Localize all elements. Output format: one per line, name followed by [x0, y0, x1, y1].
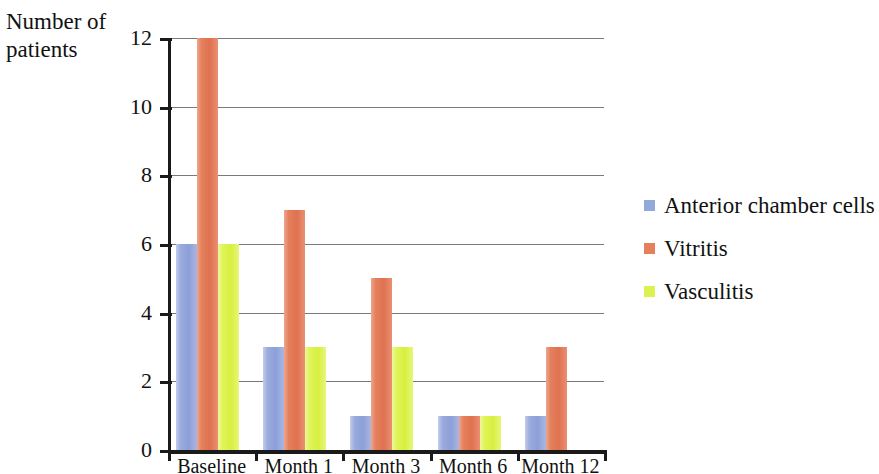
y-axis-tick: [160, 244, 172, 247]
x-axis-line: [168, 450, 605, 454]
y-axis-tick: [160, 175, 172, 178]
y-axis-tick-label: 0: [108, 439, 152, 461]
bar-month-3-anterior-chamber-cells: [350, 416, 371, 450]
y-axis-tick: [160, 38, 172, 41]
y-axis-tick: [160, 381, 172, 384]
bar-baseline-vasculitis: [218, 244, 239, 450]
y-axis-tick-label: 2: [108, 370, 152, 392]
y-axis-tick: [160, 313, 172, 316]
bar-month-1-vasculitis: [305, 347, 326, 450]
gridline: [168, 175, 604, 176]
y-axis-title: Number of patients: [6, 8, 124, 64]
x-axis-label-baseline: Baseline: [168, 455, 255, 474]
y-axis-tick-label: 4: [108, 302, 152, 324]
bar-month-12-vitritis: [546, 347, 567, 450]
y-axis-tick-label: 12: [108, 27, 152, 49]
y-axis-tick-label: 8: [108, 164, 152, 186]
legend-label: Vitritis: [664, 235, 728, 263]
y-axis-tick: [160, 107, 172, 110]
bar-month-12-anterior-chamber-cells: [525, 416, 546, 450]
bar-chart: Number of patients 024681012 BaselineMon…: [0, 0, 879, 474]
legend-item-vitritis[interactable]: Vitritis: [644, 235, 879, 278]
legend-label: Vasculitis: [664, 278, 753, 306]
legend-swatch-icon: [644, 243, 655, 254]
x-axis-label-month-3: Month 3: [342, 455, 429, 474]
legend-swatch-icon: [644, 286, 655, 297]
x-axis-tick: [168, 450, 171, 461]
gridline: [168, 38, 604, 39]
legend-item-anterior-chamber-cells[interactable]: Anterior chamber cells: [644, 192, 879, 235]
bar-month-3-vasculitis: [392, 347, 413, 450]
bar-baseline-anterior-chamber-cells: [176, 244, 197, 450]
bar-baseline-vitritis: [197, 38, 218, 450]
bar-month-3-vitritis: [371, 278, 392, 450]
x-axis-tick: [604, 450, 607, 461]
legend-swatch-icon: [644, 200, 655, 211]
gridline: [168, 107, 604, 108]
legend-label: Anterior chamber cells: [664, 192, 875, 220]
chart-legend: Anterior chamber cellsVitritisVasculitis: [644, 192, 879, 321]
x-axis-label-month-12: Month 12: [517, 455, 604, 474]
plot-area: [168, 38, 604, 450]
y-axis-tick-label: 10: [108, 96, 152, 118]
bar-month-6-anterior-chamber-cells: [438, 416, 459, 450]
x-axis-label-month-6: Month 6: [430, 455, 517, 474]
x-axis-label-month-1: Month 1: [255, 455, 342, 474]
y-axis-tick-label: 6: [108, 233, 152, 255]
bar-month-1-anterior-chamber-cells: [263, 347, 284, 450]
legend-item-vasculitis[interactable]: Vasculitis: [644, 278, 879, 321]
bar-month-1-vitritis: [284, 210, 305, 450]
bar-month-6-vasculitis: [480, 416, 501, 450]
bar-month-6-vitritis: [459, 416, 480, 450]
